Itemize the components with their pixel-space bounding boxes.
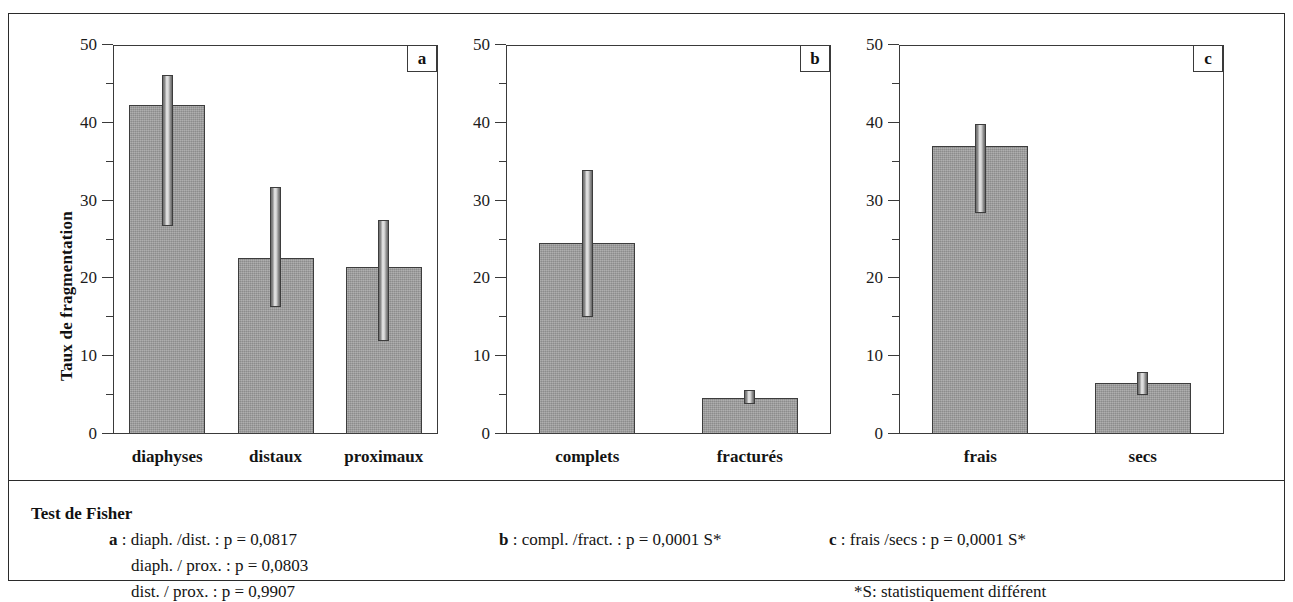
charts-band: 01020304050adiaphysesdistauxproximaux010… <box>9 14 1284 480</box>
y-tick-label: 40 <box>47 114 97 131</box>
y-tick-label: 0 <box>47 425 97 442</box>
y-tick-label: 40 <box>440 114 490 131</box>
error-bar-c-0 <box>975 124 986 213</box>
caption-title: Test de Fisher <box>31 504 132 524</box>
error-bar-a-2 <box>378 220 389 341</box>
y-tick-major <box>495 433 506 434</box>
y-tick-minor <box>892 83 899 84</box>
y-tick-major <box>102 433 113 434</box>
y-tick-label: 10 <box>440 347 490 364</box>
y-tick-major <box>888 122 899 123</box>
y-tick-major <box>495 200 506 201</box>
x-tick-label-a-0: diaphyses <box>113 448 221 465</box>
error-bar-b-0 <box>582 170 593 317</box>
y-tick-label: 30 <box>47 192 97 209</box>
caption-text: *S: statistiquement différent <box>854 582 1046 602</box>
error-bar-c-1 <box>1137 372 1148 395</box>
x-tick-label-a-2: proximaux <box>330 448 438 465</box>
caption-line: b : compl. /fract. : p = 0,0001 S* <box>499 530 722 550</box>
caption-band: Test de Fisher a : diaph. /dist. : p = 0… <box>9 481 1284 580</box>
chart-panel-a: 01020304050adiaphysesdistauxproximaux <box>113 14 458 480</box>
y-tick-major <box>888 355 899 356</box>
panel-tag-c: c <box>1193 45 1223 72</box>
y-tick-minor <box>499 161 506 162</box>
chart-panel-b: 01020304050bcompletsfracturés <box>506 14 851 480</box>
panel-tag-a: a <box>407 45 437 72</box>
caption-text: dist. / prox. : p = 0,9907 <box>131 582 295 602</box>
y-tick-label: 20 <box>833 269 883 286</box>
x-tick-label-c-0: frais <box>899 448 1062 465</box>
x-tick-label-b-0: complets <box>506 448 669 465</box>
y-tick-label: 30 <box>833 192 883 209</box>
y-tick-major <box>495 277 506 278</box>
x-tick-label-b-1: fracturés <box>669 448 832 465</box>
y-tick-label: 10 <box>833 347 883 364</box>
error-bar-b-1 <box>744 390 755 403</box>
y-tick-label: 0 <box>833 425 883 442</box>
y-tick-minor <box>499 316 506 317</box>
y-tick-major <box>888 44 899 45</box>
y-tick-minor <box>106 83 113 84</box>
y-tick-major <box>495 44 506 45</box>
y-tick-minor <box>892 316 899 317</box>
error-bar-a-1 <box>270 187 281 308</box>
y-tick-label: 0 <box>440 425 490 442</box>
y-tick-major <box>102 355 113 356</box>
y-tick-major <box>102 44 113 45</box>
y-tick-minor <box>106 239 113 240</box>
y-tick-minor <box>106 161 113 162</box>
y-tick-label: 30 <box>440 192 490 209</box>
y-tick-major <box>102 200 113 201</box>
y-tick-label: 40 <box>833 114 883 131</box>
caption-text: diaph. / prox. : p = 0,0803 <box>131 556 308 576</box>
y-axis-label: Taux de fragmentation <box>57 211 77 381</box>
caption-text: : diaph. /dist. : p = 0,0817 <box>118 530 298 549</box>
y-tick-major <box>495 122 506 123</box>
y-tick-minor <box>892 239 899 240</box>
y-tick-label: 50 <box>833 36 883 53</box>
y-tick-major <box>102 277 113 278</box>
caption-line: a : diaph. /dist. : p = 0,0817 <box>109 530 297 550</box>
y-tick-label: 20 <box>440 269 490 286</box>
y-tick-minor <box>499 83 506 84</box>
y-tick-label: 50 <box>47 36 97 53</box>
y-tick-minor <box>106 316 113 317</box>
y-tick-major <box>888 433 899 434</box>
y-tick-major <box>102 122 113 123</box>
caption-panel-ref: a <box>109 530 118 549</box>
x-tick-label-c-1: secs <box>1062 448 1225 465</box>
y-tick-minor <box>106 394 113 395</box>
panel-tag-b: b <box>800 45 830 72</box>
y-tick-major <box>888 277 899 278</box>
caption-panel-ref: c <box>829 530 837 549</box>
caption-line: c : frais /secs : p = 0,0001 S* <box>829 530 1026 550</box>
caption-text: : compl. /fract. : p = 0,0001 S* <box>508 530 721 549</box>
y-tick-minor <box>499 394 506 395</box>
x-tick-label-a-1: distaux <box>221 448 329 465</box>
error-bar-a-0 <box>162 75 173 227</box>
y-tick-minor <box>892 394 899 395</box>
y-tick-label: 50 <box>440 36 490 53</box>
y-tick-major <box>888 200 899 201</box>
y-tick-major <box>495 355 506 356</box>
figure-frame: 01020304050adiaphysesdistauxproximaux010… <box>8 13 1285 581</box>
y-tick-minor <box>499 239 506 240</box>
caption-text: : frais /secs : p = 0,0001 S* <box>837 530 1027 549</box>
chart-panel-c: 01020304050cfraissecs <box>899 14 1244 480</box>
y-tick-minor <box>892 161 899 162</box>
